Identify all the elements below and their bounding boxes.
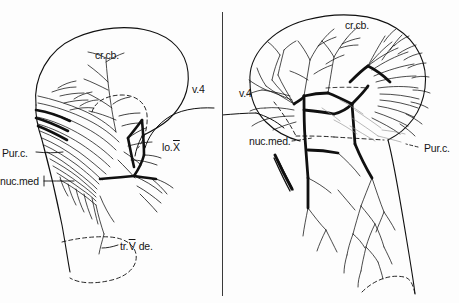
bottom-dashed-boundary-right [362,276,415,294]
label-pur-c-right: Pur.c. [424,143,450,154]
label-tr-v-de-left-suffix: de. [136,240,153,252]
panel-divider [222,12,223,296]
label-tr-v-de-left-prefix: tr. [120,240,128,252]
descending-dendritic-tree-right [303,153,395,287]
label-tr-v-de-left-roman: V [128,240,136,252]
label-cr-cb-right: cr.cb. [345,20,369,31]
ventricle-v4-line-right [222,113,284,128]
label-tr-v-de-left: tr.V de. [120,241,153,252]
label-lo-x-left-roman: X [173,141,181,153]
dendritic-fan-left-of-right-panel [247,41,296,130]
dendritic-fan-right [368,29,430,136]
lobule-x-dashed-boundary-left [92,95,147,148]
label-v4-right: v.4 [239,88,252,99]
figure-canvas: cr.cb. v.4 lo.X Pur.c. nuc.med tr.V de. … [0,0,459,303]
faint-dendrites-right [322,100,405,142]
dashed-lamina-right [326,87,368,88]
dendritic-arborization-left [37,52,124,254]
central-ascending-dendrites-right [290,27,360,96]
label-v4-left: v.4 [192,84,205,95]
left-panel-drawing [0,0,222,303]
label-pur-c-left: Pur.c. [2,148,28,159]
label-lo-x-left-text: lo. [162,141,173,153]
label-cr-cb-left: cr.cb. [95,50,119,61]
label-nuc-med-left: nuc.med [0,176,39,187]
label-lo-x-left: lo.X [162,142,180,153]
label-nuc-med-right: nuc.med. [249,136,291,147]
